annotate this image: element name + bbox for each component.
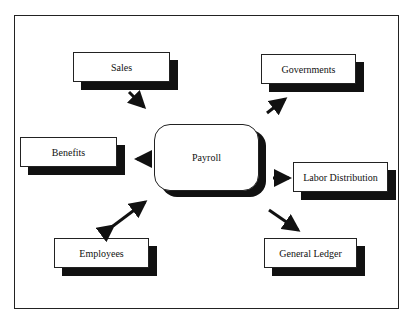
arrow-sales-to-payroll (129, 92, 144, 107)
arrows-layer (0, 0, 408, 312)
arrow-payroll-to-ledger (269, 210, 298, 230)
arrow-payroll-employees (113, 202, 145, 226)
arrow-payroll-to-governments (267, 99, 285, 113)
